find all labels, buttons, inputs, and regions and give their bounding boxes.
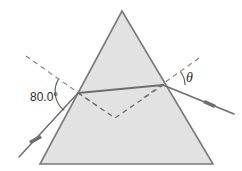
angle-label-theta: θ xyxy=(186,70,193,85)
incident-ray-arrowhead xyxy=(29,135,42,144)
angle-label-80: 80.0° xyxy=(30,90,58,104)
prism-refraction-figure: 80.0° θ xyxy=(0,0,242,171)
diagram-canvas: 80.0° θ xyxy=(0,0,242,171)
exit-ray-arrowhead xyxy=(203,100,216,108)
angle-arc-theta xyxy=(180,72,185,86)
